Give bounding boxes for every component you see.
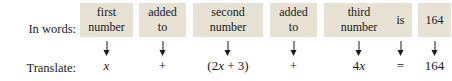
expression-third-number: 4x xyxy=(324,58,394,74)
down-arrow-second-number xyxy=(224,41,233,56)
translation-columns: firstnumberxaddedto+secondnumber(2x + 3)… xyxy=(80,0,452,81)
word-line-1: added xyxy=(279,5,308,20)
column-is: is= xyxy=(389,0,412,81)
column-third-number: thirdnumber4x xyxy=(324,0,394,81)
row-label-translate: Translate: xyxy=(0,61,76,75)
word-line-2: number xyxy=(341,20,378,35)
word-box-is: is xyxy=(389,3,412,37)
word-box-added-to-2: addedto xyxy=(270,3,317,37)
arrow-head xyxy=(159,50,165,56)
arrow-head xyxy=(431,50,437,56)
arrow-head xyxy=(397,50,403,56)
expression-second-number: (2x + 3) xyxy=(193,58,263,74)
word-line-2: number xyxy=(210,20,247,35)
word-box-value-164: 164 xyxy=(418,3,451,37)
word-line-1: is xyxy=(396,13,404,28)
down-arrow-added-to-2 xyxy=(289,41,298,56)
arrow-head xyxy=(225,50,231,56)
word-line-2: number xyxy=(88,20,125,35)
expression-added-to-1: + xyxy=(139,58,186,74)
down-arrow-value-164 xyxy=(430,41,439,56)
word-line-2: to xyxy=(289,20,298,35)
expression-value-164: 164 xyxy=(418,58,451,74)
expression-is: = xyxy=(389,58,412,74)
down-arrow-is xyxy=(396,41,405,56)
expression-first-number: x xyxy=(80,58,133,74)
column-added-to-2: addedto+ xyxy=(270,0,317,81)
translation-diagram: In words: Translate: firstnumberxaddedto… xyxy=(0,0,452,81)
word-line-2: to xyxy=(158,20,167,35)
down-arrow-first-number xyxy=(102,41,111,56)
expression-added-to-2: + xyxy=(270,58,317,74)
word-box-third-number: thirdnumber xyxy=(324,3,394,37)
word-box-first-number: firstnumber xyxy=(80,3,133,37)
column-first-number: firstnumberx xyxy=(80,0,133,81)
arrow-head xyxy=(356,50,362,56)
word-box-added-to-1: addedto xyxy=(139,3,186,37)
arrow-head xyxy=(103,50,109,56)
down-arrow-added-to-1 xyxy=(158,41,167,56)
column-added-to-1: addedto+ xyxy=(139,0,186,81)
word-line-1: first xyxy=(97,5,116,20)
column-second-number: secondnumber(2x + 3) xyxy=(193,0,263,81)
word-line-1: 164 xyxy=(426,13,444,28)
word-line-1: third xyxy=(348,5,371,20)
word-line-1: added xyxy=(148,5,177,20)
arrow-head xyxy=(290,50,296,56)
down-arrow-third-number xyxy=(355,41,364,56)
row-label-in-words: In words: xyxy=(0,22,76,36)
column-value-164: 164164 xyxy=(418,0,451,81)
word-box-second-number: secondnumber xyxy=(193,3,263,37)
word-line-1: second xyxy=(211,5,244,20)
